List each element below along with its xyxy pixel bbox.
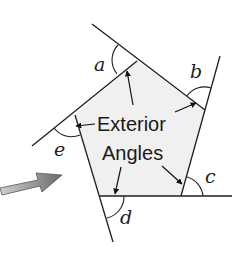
title-angles: Angles bbox=[102, 142, 163, 164]
angle-label-c: c bbox=[205, 165, 216, 187]
angle-label-a: a bbox=[94, 53, 105, 75]
gray-arrow-icon bbox=[0, 173, 62, 195]
arc-b bbox=[187, 87, 211, 96]
arc-a bbox=[112, 45, 118, 74]
title-exterior: Exterior bbox=[97, 113, 166, 135]
exterior-angles-diagram: Exterior Angles a b c d e bbox=[0, 0, 249, 255]
arc-c bbox=[187, 177, 203, 196]
angle-label-b: b bbox=[190, 60, 202, 82]
angle-label-e: e bbox=[54, 138, 65, 160]
arc-e bbox=[54, 128, 80, 137]
angle-label-d: d bbox=[120, 206, 132, 228]
